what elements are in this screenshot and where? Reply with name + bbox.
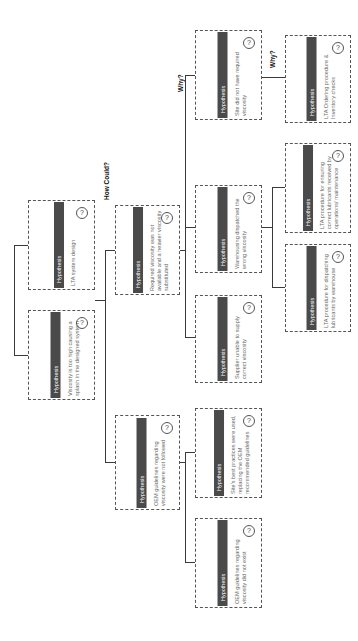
question-icon[interactable]: ? — [161, 212, 173, 224]
question-icon[interactable]: ? — [76, 207, 88, 219]
hypothesis-card-lta-dispatching[interactable]: Hypothesis LTA procedure for dispatching… — [285, 244, 351, 332]
connector — [262, 227, 272, 228]
question-icon[interactable]: ? — [332, 150, 344, 162]
hypothesis-header: Hypothesis — [307, 246, 317, 330]
hypothesis-header: Hypothesis — [217, 32, 227, 118]
hypothesis-card-site-best-practices[interactable]: Hypothesis Site's best practices were us… — [195, 408, 262, 498]
connector — [185, 337, 195, 338]
connector — [105, 250, 115, 251]
why-label: Why? — [269, 50, 276, 68]
question-icon[interactable]: ? — [243, 525, 255, 537]
hypothesis-card-warehousing-wrong[interactable]: Hypothesis Warehousing dispatched the wr… — [195, 185, 262, 273]
hypothesis-header: Hypothesis — [136, 418, 146, 508]
hypothesis-card-lta-system-design[interactable]: Hypothesis LTA system design ? — [28, 200, 95, 290]
connector — [272, 187, 273, 287]
connector — [14, 245, 28, 246]
connector — [105, 250, 106, 462]
connector — [14, 245, 15, 355]
hypothesis-header: Hypothesis — [307, 37, 317, 121]
hypothesis-card-oem-not-exist[interactable]: Hypothesis OEM guidelines regarding visc… — [195, 518, 262, 608]
hypothesis-header: Hypothesis — [303, 145, 313, 231]
question-icon[interactable]: ? — [332, 251, 344, 263]
hypothesis-header: Hypothesis — [133, 207, 143, 293]
hypothesis-header: Hypothesis — [50, 312, 60, 398]
hypothesis-header: Hypothesis — [217, 187, 227, 271]
hypothesis-card-required-not-available[interactable]: Hypothesis Required viscosity was not av… — [115, 205, 180, 295]
question-icon[interactable]: ? — [76, 317, 88, 329]
question-icon[interactable]: ? — [243, 192, 255, 204]
hypothesis-card-site-no-viscosity[interactable]: Hypothesis Site did not have required vi… — [195, 30, 262, 120]
hypothesis-header: Hypothesis — [54, 202, 64, 288]
connector — [95, 300, 105, 301]
question-icon[interactable]: ? — [243, 415, 255, 427]
hypothesis-card-oem-not-followed[interactable]: Hypothesis OEM guidelines regarding visc… — [115, 415, 180, 510]
connector — [185, 227, 195, 228]
question-icon[interactable]: ? — [243, 302, 255, 314]
why-label: Why? — [177, 74, 184, 92]
connector — [105, 462, 115, 463]
connector — [185, 452, 186, 562]
hypothesis-card-supplier-unable[interactable]: Hypothesis Supplier unable to supply cor… — [195, 295, 262, 383]
connector — [185, 75, 186, 337]
connector — [185, 562, 195, 563]
hypothesis-header: Hypothesis — [214, 410, 224, 496]
question-icon[interactable]: ? — [161, 422, 173, 434]
hypothesis-card-lta-ensuring[interactable]: Hypothesis LTA procedure for ensuring co… — [285, 143, 351, 233]
connector — [185, 452, 195, 453]
hypothesis-card-viscosity-too-high[interactable]: Hypothesis Viscosity is too high causing… — [28, 310, 95, 400]
connector — [272, 287, 285, 288]
connector — [185, 75, 195, 76]
connector — [262, 77, 285, 78]
hypothesis-header: Hypothesis — [217, 297, 227, 381]
hypothesis-card-lta-ordering[interactable]: Hypothesis LTA Ordering procedure & Inve… — [285, 35, 351, 123]
connector — [14, 355, 28, 356]
hypothesis-header: Hypothesis — [217, 520, 227, 606]
how-could-label: How Could? — [103, 162, 110, 200]
connector — [272, 187, 285, 188]
question-icon[interactable]: ? — [243, 37, 255, 49]
question-icon[interactable]: ? — [332, 42, 344, 54]
